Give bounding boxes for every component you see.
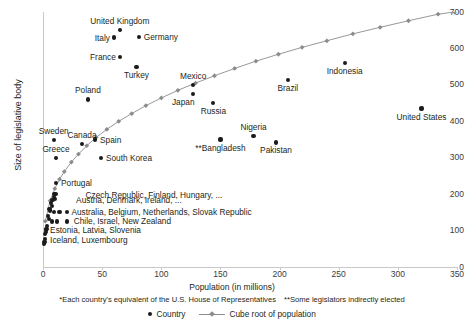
data-point-united-states[interactable] [419, 106, 423, 110]
x-tick-mark-100 [161, 267, 162, 270]
cluster-label-iceland-luxembourg: Iceland, Luxembourg [50, 236, 128, 245]
data-point-turkey[interactable] [134, 65, 138, 69]
data-point-sweden[interactable] [52, 138, 56, 142]
legend-item-cube-root[interactable]: Cube root of population [199, 309, 315, 319]
plot-area: United KingdomItalyGermanyFranceTurkeyMe… [43, 12, 457, 267]
data-label-italy: Italy [95, 33, 110, 42]
data-label-poland: Poland [75, 86, 101, 95]
cluster-point-16[interactable] [65, 219, 69, 223]
x-tick-150: 150 [200, 270, 240, 279]
data-point-france[interactable] [118, 55, 122, 59]
cluster-label-austria-denmark-ireland: Austria, Denmark, Ireland, ... [76, 195, 182, 204]
x-tick-mark-250 [339, 267, 340, 270]
data-label-pakistan: Pakistan [260, 146, 292, 155]
data-point-greece[interactable] [54, 156, 58, 160]
data-label-bangladesh: **Bangladesh [195, 144, 245, 153]
x-axis-line [43, 267, 457, 268]
x-axis-title: Population (in millions) [0, 282, 464, 292]
cluster-point-14[interactable] [50, 219, 54, 223]
country-dot-icon [148, 312, 152, 316]
footnote-single-asterisk: *Each country's equivalent of the U.S. H… [59, 295, 276, 304]
x-tick-mark-300 [398, 267, 399, 270]
data-label-indonesia: Indonesia [327, 67, 363, 76]
data-point-spain[interactable] [93, 137, 97, 141]
data-label-france: France [90, 52, 116, 61]
x-tick-250: 250 [319, 270, 359, 279]
data-point-italy[interactable] [112, 35, 116, 39]
x-tick-0: 0 [23, 270, 63, 279]
x-tick-350: 350 [437, 270, 469, 279]
data-point-indonesia[interactable] [343, 61, 347, 65]
x-tick-50: 50 [82, 270, 122, 279]
data-label-turkey: Turkey [124, 71, 149, 80]
data-label-greece: Greece [42, 145, 69, 154]
cube-root-line-icon [199, 311, 225, 317]
data-label-germany: Germany [144, 33, 178, 42]
x-tick-mark-200 [280, 267, 281, 270]
x-tick-mark-50 [102, 267, 103, 270]
data-label-spain: Spain [100, 135, 121, 144]
data-label-nigeria: Nigeria [240, 123, 266, 132]
cluster-point-15[interactable] [55, 219, 59, 223]
legend-label-cube-root: Cube root of population [229, 309, 315, 319]
footnote-double-asterisk: **Some legislators indirectly elected [284, 295, 405, 304]
data-point-canada[interactable] [80, 142, 84, 146]
data-label-portugal: Portugal [61, 179, 92, 188]
data-point-bangladesh[interactable] [218, 137, 222, 141]
x-tick-300: 300 [378, 270, 418, 279]
data-label-russia: Russia [201, 107, 226, 116]
data-label-mexico: Mexico [180, 72, 206, 81]
x-tick-mark-0 [43, 267, 44, 270]
data-point-pakistan[interactable] [274, 140, 278, 144]
x-tick-200: 200 [260, 270, 300, 279]
data-label-south-korea: South Korea [106, 154, 152, 163]
footnotes: *Each country's equivalent of the U.S. H… [0, 295, 464, 304]
x-tick-mark-350 [457, 267, 458, 270]
x-tick-mark-150 [220, 267, 221, 270]
data-label-brazil: Brazil [277, 84, 298, 93]
legend-item-country[interactable]: Country [148, 309, 185, 319]
x-tick-100: 100 [141, 270, 181, 279]
y-axis-title: Size of legislative body [13, 55, 23, 195]
data-label-sweden: Sweden [39, 127, 69, 136]
data-point-nigeria[interactable] [251, 134, 255, 138]
chart-legend: Country Cube root of population [0, 309, 464, 319]
data-label-united-states: United States [397, 113, 447, 122]
legend-label-country: Country [156, 309, 185, 319]
data-label-united-kingdom: United Kingdom [90, 17, 149, 26]
data-point-poland[interactable] [86, 97, 90, 101]
data-label-japan: Japan [172, 98, 195, 107]
cluster-label-estonia-latvia-slovenia: Estonia, Latvia, Slovenia [50, 226, 141, 235]
